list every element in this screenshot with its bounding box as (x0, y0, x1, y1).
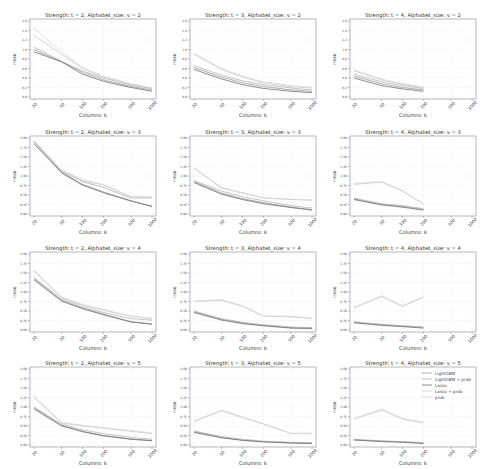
subplot-title: Strength: t = 2, Alphabet_size: v = 5 (45, 360, 140, 367)
y-tick-label: 1.00 (20, 290, 27, 294)
x-tick-label: 200 (259, 101, 268, 110)
x-tick-label: 20 (191, 334, 199, 342)
y-tick-label: 0.75 (340, 415, 347, 419)
subplot-12: Strength: t = 4, Alphabet_size: v = 50.0… (332, 360, 478, 466)
x-tick-label: 200 (419, 101, 428, 110)
y-tick-label: 1.50 (340, 271, 347, 275)
x-tick-label: 100 (78, 218, 87, 227)
y-axis-label: rmse (332, 286, 337, 297)
x-tick-label: 200 (99, 334, 108, 343)
y-tick-label: 0.25 (180, 203, 187, 207)
y-tick-label: 2.00 (20, 252, 27, 256)
x-tick-label: 1000 (307, 100, 318, 111)
y-tick-label: 0.2 (22, 86, 27, 90)
y-tick-label: 1.25 (340, 165, 347, 169)
y-tick-label: 1.6 (182, 19, 187, 23)
x-axis-label: Columns: k (399, 229, 427, 235)
y-tick-label: 1.6 (22, 19, 27, 23)
y-axis-label: rmse (332, 170, 337, 181)
legend-label: LightGBM + prob (435, 377, 471, 382)
y-tick-label: 2.00 (20, 136, 27, 140)
y-tick-label: 1.2 (342, 38, 347, 42)
subplot-4: Strength: t = 2, Alphabet_size: v = 30.0… (12, 129, 158, 235)
y-tick-label: 1.4 (342, 29, 347, 33)
y-tick-label: 1.25 (20, 396, 27, 400)
subplot-title: Strength: t = 2, Alphabet_size: v = 2 (45, 12, 140, 19)
y-tick-label: 0.75 (20, 300, 27, 304)
subplot-title: Strength: t = 3, Alphabet_size: v = 5 (205, 360, 300, 367)
y-tick-label: 1.4 (182, 29, 187, 33)
x-tick-label: 200 (259, 218, 268, 227)
x-tick-label: 100 (238, 218, 247, 227)
y-tick-label: 1.50 (20, 271, 27, 275)
subplot-3: Strength: t = 4, Alphabet_size: v = 20.0… (332, 12, 478, 118)
x-tick-label: 200 (99, 449, 108, 458)
subplot-grid: Strength: t = 2, Alphabet_size: v = 20.0… (0, 0, 486, 469)
subplot-8: Strength: t = 3, Alphabet_size: v = 40.0… (172, 245, 318, 351)
y-tick-label: 1.6 (342, 19, 347, 23)
y-tick-label: 0.6 (182, 67, 187, 71)
y-tick-label: 0.50 (20, 424, 27, 428)
x-axis-label: Columns: k (239, 229, 267, 235)
y-tick-label: 0.25 (180, 319, 187, 323)
x-tick-label: 500 (287, 334, 296, 343)
subplot-2: Strength: t = 3, Alphabet_size: v = 20.0… (172, 12, 318, 118)
y-tick-label: 2.00 (180, 136, 187, 140)
legend-label: prob (435, 395, 445, 400)
y-tick-label: 0.50 (340, 424, 347, 428)
y-tick-label: 0.00 (180, 328, 187, 332)
y-tick-label: 2.00 (340, 367, 347, 371)
x-tick-label: 50 (378, 218, 386, 226)
y-tick-label: 1.50 (340, 386, 347, 390)
y-tick-label: 0.00 (180, 212, 187, 216)
y-tick-label: 0.00 (20, 328, 27, 332)
subplot-title: Strength: t = 3, Alphabet_size: v = 2 (205, 12, 300, 19)
x-axis-label: Columns: k (79, 345, 107, 351)
x-tick-label: 500 (287, 101, 296, 110)
y-tick-label: 1.75 (340, 262, 347, 266)
y-tick-label: 1.75 (180, 262, 187, 266)
y-tick-label: 0.75 (20, 184, 27, 188)
x-tick-label: 50 (58, 449, 66, 457)
y-tick-label: 0.75 (20, 415, 27, 419)
x-tick-label: 1000 (467, 448, 478, 459)
y-tick-label: 1.2 (22, 38, 27, 42)
x-tick-label: 200 (419, 449, 428, 458)
x-tick-label: 20 (191, 218, 199, 226)
legend-label: Lasso + prob (435, 389, 463, 394)
x-tick-label: 100 (78, 101, 87, 110)
y-tick-label: 1.4 (22, 29, 27, 33)
subplot-title: Strength: t = 3, Alphabet_size: v = 3 (205, 129, 300, 136)
y-axis-label: rmse (172, 170, 177, 181)
x-tick-label: 50 (218, 334, 226, 342)
y-tick-label: 1.75 (20, 262, 27, 266)
x-tick-label: 1000 (467, 217, 478, 228)
x-tick-label: 200 (99, 101, 108, 110)
y-tick-label: 1.25 (340, 396, 347, 400)
x-tick-label: 200 (99, 218, 108, 227)
y-tick-label: 0.75 (180, 415, 187, 419)
y-tick-label: 1.25 (20, 281, 27, 285)
y-tick-label: 0.2 (182, 86, 187, 90)
y-tick-label: 0.00 (340, 443, 347, 447)
y-tick-label: 1.00 (340, 290, 347, 294)
y-tick-label: 0.00 (180, 443, 187, 447)
y-tick-label: 1.0 (182, 48, 187, 52)
y-tick-label: 0.25 (20, 434, 27, 438)
x-tick-label: 1000 (307, 448, 318, 459)
x-tick-label: 1000 (307, 217, 318, 228)
y-tick-label: 0.50 (180, 424, 187, 428)
y-tick-label: 0.25 (340, 319, 347, 323)
x-tick-label: 1000 (147, 333, 158, 344)
y-tick-label: 1.00 (180, 174, 187, 178)
y-tick-label: 0.25 (340, 434, 347, 438)
y-axis-label: rmse (172, 53, 177, 64)
y-tick-label: 1.00 (340, 405, 347, 409)
subplot-5: Strength: t = 3, Alphabet_size: v = 30.0… (172, 129, 318, 235)
y-tick-label: 0.6 (342, 67, 347, 71)
y-tick-label: 1.00 (180, 405, 187, 409)
y-tick-label: 1.00 (180, 290, 187, 294)
y-tick-label: 1.25 (180, 165, 187, 169)
y-tick-label: 1.50 (180, 271, 187, 275)
y-tick-label: 1.75 (340, 146, 347, 150)
